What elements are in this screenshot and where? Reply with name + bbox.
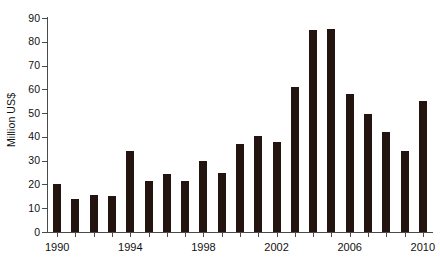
x-axis-tick [368,233,369,237]
bar [126,151,134,232]
bar [309,30,317,232]
y-axis-tick [42,137,47,138]
x-axis-tick [258,233,259,237]
y-axis-tick-label: 20 [0,179,40,190]
bar [419,101,427,232]
bar [199,161,207,232]
y-axis-tick-label: 80 [0,36,40,47]
x-axis-tick-label: 2006 [337,241,361,253]
x-axis-tick [405,233,406,237]
x-axis-tick [149,233,150,237]
bar [53,184,61,232]
bar [145,181,153,232]
y-axis-tick [42,113,47,114]
x-axis-tick [295,233,296,237]
x-axis-tick [130,233,131,237]
x-axis-tick [313,233,314,237]
y-axis-labels: 0102030405060708090 [0,0,40,269]
y-axis-tick [42,184,47,185]
y-axis-tick-label: 50 [0,108,40,119]
y-axis-tick-label: 90 [0,13,40,24]
bar [273,142,281,232]
bar-chart: Million US$ 0102030405060708090 19901994… [0,0,440,269]
x-axis-tick [57,233,58,237]
x-axis-tick [75,233,76,237]
x-axis-tick [423,233,424,237]
x-axis-tick [167,233,168,237]
bar [108,196,116,232]
bar [181,181,189,232]
x-axis-tick-label: 1990 [45,241,69,253]
y-axis-tick-label: 0 [0,227,40,238]
y-axis-tick [42,89,47,90]
y-axis-tick [42,42,47,43]
y-axis-tick [42,66,47,67]
x-axis-tick [386,233,387,237]
bar [401,151,409,232]
bar [218,173,226,232]
bar [254,136,262,232]
y-axis-tick-label: 10 [0,203,40,214]
y-axis-tick-label: 60 [0,84,40,95]
plot-area [48,18,432,232]
y-axis-tick-label: 40 [0,131,40,142]
bar [163,174,171,232]
bar [346,94,354,232]
y-axis-tick [42,232,47,233]
x-axis-tick [277,233,278,237]
y-axis-tick [42,18,47,19]
x-axis-tick [222,233,223,237]
x-axis-tick-label: 2002 [264,241,288,253]
x-axis-tick [112,233,113,237]
bar [236,144,244,232]
x-axis-tick [350,233,351,237]
y-axis-tick [42,208,47,209]
bar [71,199,79,232]
bar [364,114,372,232]
y-axis-tick-label: 70 [0,60,40,71]
y-axis-tick [42,161,47,162]
bar [90,195,98,232]
x-axis-tick [185,233,186,237]
x-axis-tick-label: 2010 [411,241,435,253]
x-axis-tick [331,233,332,237]
bar [327,29,335,232]
y-axis-tick-label: 30 [0,155,40,166]
bar [382,132,390,232]
x-axis-tick [203,233,204,237]
x-axis-tick [94,233,95,237]
x-axis-tick-label: 1994 [118,241,142,253]
x-axis-tick-label: 1998 [191,241,215,253]
bar [291,87,299,232]
x-axis-tick [240,233,241,237]
